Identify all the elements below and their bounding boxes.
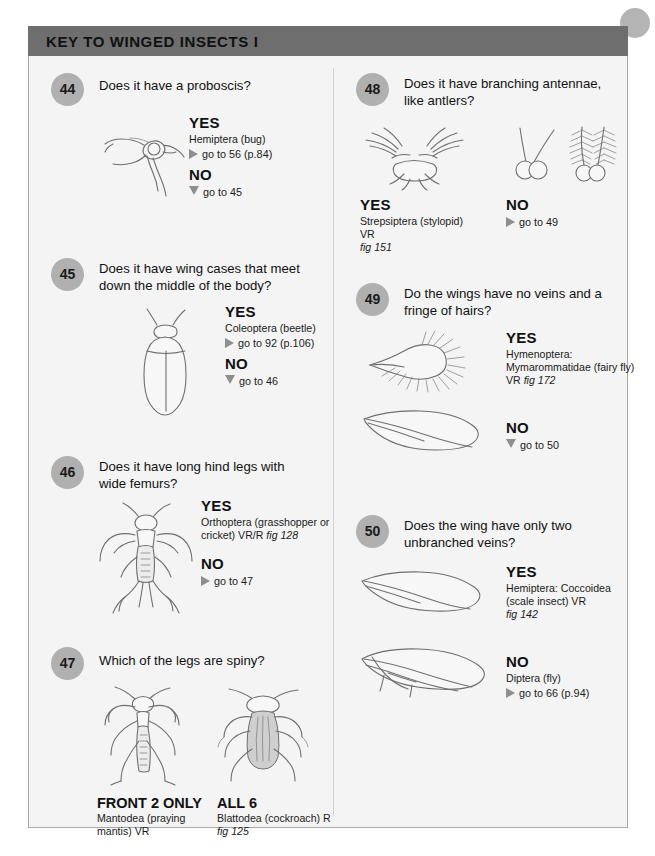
- entry-question-50: Does the wing have only two unbranched v…: [404, 517, 619, 551]
- answer-yes-label-46: YES: [201, 497, 336, 515]
- entry-number-50: 50: [356, 515, 389, 548]
- answer-no-50: NO Diptera (fly) go to 66 (p.94): [506, 653, 641, 700]
- illustration-plain-antennae: [502, 118, 627, 193]
- page-header: KEY TO WINGED INSECTS I: [28, 26, 628, 56]
- answer-yes-taxon-48: Strepsiptera (stylopid) VR fig 151: [360, 215, 480, 254]
- caption-sub-cockroach: Blattodea (cockroach) R fig 125: [217, 812, 347, 838]
- entry-question-47: Which of the legs are spiny?: [99, 652, 314, 669]
- answer-no-label-48: NO: [506, 196, 626, 214]
- illustration-scale-wing: [354, 563, 494, 619]
- answer-yes-goto-44[interactable]: go to 56 (p.84): [189, 147, 329, 161]
- answer-yes-label-50: YES: [506, 563, 641, 581]
- entry-number-46: 46: [51, 456, 84, 489]
- answer-yes-label-48: YES: [360, 196, 480, 214]
- entry-number-48: 48: [356, 73, 389, 106]
- entry-question-45: Does it have wing cases that meet down t…: [99, 260, 317, 294]
- triangle-right-icon: [189, 149, 198, 159]
- entry-question-44: Does it have a proboscis?: [99, 77, 314, 94]
- triangle-right-icon: [506, 688, 515, 698]
- answer-no-goto-44[interactable]: go to 45: [189, 185, 329, 199]
- answer-yes-label-44: YES: [189, 114, 329, 132]
- triangle-right-icon: [225, 338, 234, 348]
- answer-no-48: NO go to 49: [506, 196, 626, 229]
- entry-number-45: 45: [51, 258, 84, 291]
- illustration-branched-antennae: [352, 122, 477, 192]
- illustration-grasshopper: [91, 497, 211, 622]
- caption-head-all-6: ALL 6: [217, 795, 347, 812]
- caption-head-front-2-only: FRONT 2 ONLY: [97, 795, 217, 812]
- page-title: KEY TO WINGED INSECTS I: [46, 33, 258, 50]
- answer-yes-label-49: YES: [506, 329, 641, 347]
- illustration-beetle: [127, 303, 207, 413]
- answer-yes-44: YES Hemiptera (bug) go to 56 (p.84): [189, 114, 329, 161]
- triangle-down-icon: [225, 375, 235, 384]
- caption-all-6: ALL 6 Blattodea (cockroach) R fig 125: [217, 795, 347, 838]
- answer-yes-46: YES Orthoptera (grasshopper or cricket) …: [201, 497, 336, 542]
- entry-number-47: 47: [51, 647, 84, 680]
- triangle-right-icon: [506, 217, 515, 227]
- key-entry-49: 49 Do the wings have no veins and a frin…: [334, 261, 629, 493]
- key-entry-44: 44 Does it have a proboscis?: [29, 56, 333, 241]
- key-entry-45: 45 Does it have wing cases that meet dow…: [29, 241, 333, 439]
- answer-no-goto-46[interactable]: go to 47: [201, 574, 341, 588]
- key-entry-47: 47 Which of the legs are spiny?: [29, 635, 333, 825]
- answer-yes-50: YES Hemiptera: Coccoidea (scale insect) …: [506, 563, 641, 621]
- illustration-mantis: [91, 683, 201, 788]
- answer-yes-49: YES Hymenoptera: Mymarommatidae (fairy f…: [506, 329, 641, 387]
- answer-no-goto-49[interactable]: go to 50: [506, 438, 641, 452]
- caption-sub-mantis: Mantodea (praying mantis) VR: [97, 812, 217, 838]
- answer-no-49: NO go to 50: [506, 419, 641, 452]
- answer-no-goto-50[interactable]: go to 66 (p.94): [506, 686, 641, 700]
- answer-no-label-44: NO: [189, 166, 329, 184]
- illustration-fairy-fly-wing: [362, 329, 492, 391]
- answer-yes-taxon-50: Hemiptera: Coccoidea (scale insect) VRfi…: [506, 582, 641, 621]
- illustration-cockroach: [211, 683, 321, 788]
- answer-yes-48: YES Strepsiptera (stylopid) VR fig 151: [360, 196, 480, 254]
- entry-question-49: Do the wings have no veins and a fringe …: [404, 285, 619, 319]
- key-entry-46: 46 Does it have long hind legs with wide…: [29, 439, 333, 635]
- entry-number-44: 44: [51, 73, 84, 106]
- triangle-down-icon: [506, 439, 516, 448]
- answer-no-46: NO go to 47: [201, 555, 341, 588]
- answer-yes-taxon-44: Hemiptera (bug): [189, 133, 329, 146]
- entry-number-49: 49: [356, 283, 389, 316]
- answer-yes-taxon-46: Orthoptera (grasshopper or cricket) VR/R…: [201, 516, 336, 542]
- triangle-down-icon: [189, 186, 199, 195]
- caption-front-2-only: FRONT 2 ONLY Mantodea (praying mantis) V…: [97, 795, 217, 838]
- answer-no-taxon-50: Diptera (fly): [506, 672, 641, 685]
- answer-no-label-50: NO: [506, 653, 641, 671]
- illustration-plain-wing-49: [354, 401, 494, 457]
- entry-question-48: Does it have branching antennae, like an…: [404, 75, 614, 109]
- key-entry-50: 50 Does the wing have only two unbranche…: [334, 493, 629, 723]
- answer-yes-taxon-49: Hymenoptera: Mymarommatidae (fairy fly) …: [506, 348, 641, 387]
- answer-no-label-46: NO: [201, 555, 341, 573]
- entry-question-46: Does it have long hind legs with wide fe…: [99, 458, 314, 492]
- answer-no-44: NO go to 45: [189, 166, 329, 199]
- illustration-fly-wing: [354, 641, 499, 699]
- triangle-right-icon: [201, 576, 210, 586]
- key-entry-48: 48 Does it have branching antennae, like…: [334, 56, 629, 261]
- key-body: 44 Does it have a proboscis?: [28, 56, 628, 828]
- answer-no-label-49: NO: [506, 419, 641, 437]
- answer-no-goto-48[interactable]: go to 49: [506, 215, 626, 229]
- key-page: KEY TO WINGED INSECTS I 44 Does it have …: [28, 26, 628, 828]
